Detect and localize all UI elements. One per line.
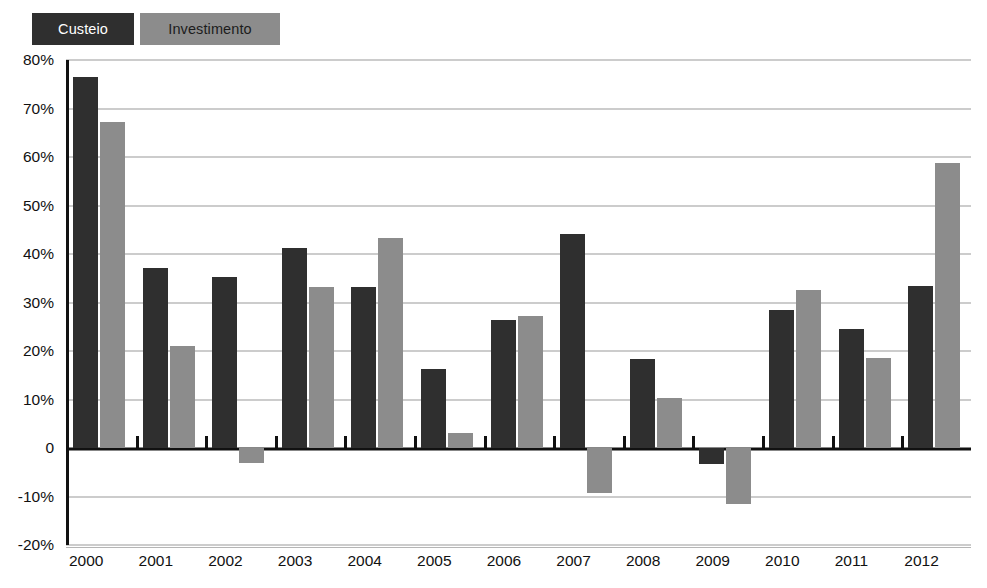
x-tick-label-2004: 2004 [344,552,414,586]
y-tick-label: 80% [23,51,54,69]
bar-investimento-2011[interactable] [866,358,891,448]
bar-investimento-2006[interactable] [518,316,543,448]
bar-chart: Custeio Investimento 80%70%60%50%40%30%2… [0,0,987,588]
x-tick-mark [275,436,278,448]
chart-legend: Custeio Investimento [32,13,280,45]
y-tick-label: -10% [18,488,54,506]
x-tick-label-2001: 2001 [136,552,206,586]
bar-investimento-2001[interactable] [170,346,195,448]
x-tick-mark [623,436,626,448]
x-tick-mark [136,436,139,448]
plot-wrapper: 80%70%60%50%40%30%20%10%0-10%-20% 200020… [0,60,987,588]
bar-group-2003 [275,60,345,545]
bar-custeio-2007[interactable] [560,234,585,448]
y-tick-label: 40% [23,245,54,263]
bar-group-2000 [66,60,136,545]
x-tick-mark [414,436,417,448]
bar-custeio-2010[interactable] [769,310,794,448]
bar-custeio-2003[interactable] [282,248,307,448]
x-tick-mark [484,436,487,448]
bar-investimento-2007[interactable] [587,448,612,493]
bar-investimento-2009[interactable] [726,448,751,504]
x-tick-label-2003: 2003 [275,552,345,586]
x-tick-mark [344,436,347,448]
bar-custeio-2009[interactable] [699,448,724,464]
x-tick-mark [762,436,765,448]
bar-custeio-2000[interactable] [73,77,98,448]
y-tick-label: 0 [45,439,54,457]
y-tick-label: 30% [23,294,54,312]
y-tick-label: 50% [23,197,54,215]
bar-group-2008 [623,60,693,545]
bar-custeio-2008[interactable] [630,359,655,448]
x-tick-label-2006: 2006 [484,552,554,586]
x-axis: 2000200120022003200420052006200720082009… [66,552,971,586]
legend-item-investimento-label: Investimento [168,21,251,37]
plot-area [66,60,971,545]
bar-investimento-2005[interactable] [448,433,473,448]
legend-item-investimento[interactable]: Investimento [140,13,280,45]
x-tick-label-2008: 2008 [623,552,693,586]
bar-custeio-2012[interactable] [908,286,933,448]
bar-custeio-2002[interactable] [212,277,237,448]
x-axis-baseline [66,547,971,548]
bar-investimento-2010[interactable] [796,290,821,448]
bar-custeio-2005[interactable] [421,369,446,448]
bar-investimento-2008[interactable] [657,398,682,448]
x-tick-mark [205,436,208,448]
x-tick-label-2010: 2010 [762,552,832,586]
bar-custeio-2006[interactable] [491,320,516,448]
x-tick-mark [66,436,69,448]
bar-investimento-2004[interactable] [378,238,403,448]
x-tick-mark [692,436,695,448]
bar-group-2012 [901,60,971,545]
y-tick-label: 70% [23,100,54,118]
y-tick-label: 10% [23,391,54,409]
bar-group-2011 [832,60,902,545]
y-axis: 80%70%60%50%40%30%20%10%0-10%-20% [0,60,62,545]
bar-custeio-2001[interactable] [143,268,168,448]
bar-group-2005 [414,60,484,545]
x-tick-mark [832,436,835,448]
bar-custeio-2011[interactable] [839,329,864,448]
x-tick-mark [553,436,556,448]
x-tick-label-2012: 2012 [901,552,971,586]
x-tick-label-2005: 2005 [414,552,484,586]
bars-layer [66,60,971,545]
bar-investimento-2012[interactable] [935,163,960,448]
y-tick-label: 60% [23,148,54,166]
bar-group-2007 [553,60,623,545]
x-tick-label-2002: 2002 [205,552,275,586]
legend-item-custeio[interactable]: Custeio [32,13,134,45]
bar-investimento-2000[interactable] [100,122,125,448]
x-tick-label-2007: 2007 [553,552,623,586]
bar-investimento-2002[interactable] [239,448,264,463]
y-tick-label: 20% [23,342,54,360]
bar-group-2001 [136,60,206,545]
legend-item-custeio-label: Custeio [58,21,108,37]
bar-group-2002 [205,60,275,545]
bar-custeio-2004[interactable] [351,287,376,448]
bar-investimento-2003[interactable] [309,287,334,448]
x-tick-label-2000: 2000 [66,552,136,586]
y-tick-label: -20% [18,536,54,554]
bar-group-2010 [762,60,832,545]
x-tick-label-2011: 2011 [832,552,902,586]
x-tick-mark [901,436,904,448]
bar-group-2004 [344,60,414,545]
bar-group-2006 [484,60,554,545]
bar-group-2009 [692,60,762,545]
x-tick-label-2009: 2009 [692,552,762,586]
